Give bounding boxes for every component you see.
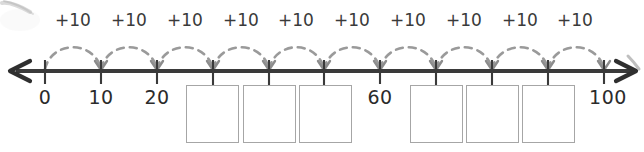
jump-label-3: +10 [167,10,203,30]
scan-smudge-artifact [0,1,40,31]
jump-label-10: +10 [557,10,593,30]
axis-label-10: 10 [88,86,113,108]
jump-arc [45,47,101,69]
jump-arc [101,47,157,69]
answer-box-70[interactable] [410,85,463,143]
jump-label-9: +10 [502,10,538,30]
jump-label-5: +10 [278,10,314,30]
jump-arc [492,47,548,69]
answer-box-40[interactable] [243,85,296,143]
jump-label-8: +10 [446,10,482,30]
answer-box-80[interactable] [466,85,519,143]
jump-label-4: +10 [223,10,259,30]
jump-arc [548,47,604,69]
jump-arc [213,47,269,69]
jump-arc [157,47,213,69]
axis-label-20: 20 [144,86,169,108]
jump-label-7: +10 [390,10,426,30]
jump-arc [324,47,380,69]
jump-arc [269,47,324,69]
number-line-worksheet: +10 +10 +10 +10 +10 +10 +10 +10 +10 +10 … [0,0,644,152]
answer-box-30[interactable] [186,85,239,143]
axis-label-100: 100 [589,86,627,108]
axis-label-60: 60 [367,86,392,108]
jump-label-1: +10 [55,10,91,30]
tick-marks-group [45,60,604,87]
jump-arc [380,47,436,69]
answer-box-50[interactable] [299,85,352,143]
jump-arc [436,47,492,69]
jump-label-2: +10 [111,10,147,30]
answer-box-90[interactable] [522,85,575,143]
jump-label-6: +10 [334,10,370,30]
jump-arrowheads-group [95,61,610,70]
axis-label-0: 0 [39,86,52,108]
